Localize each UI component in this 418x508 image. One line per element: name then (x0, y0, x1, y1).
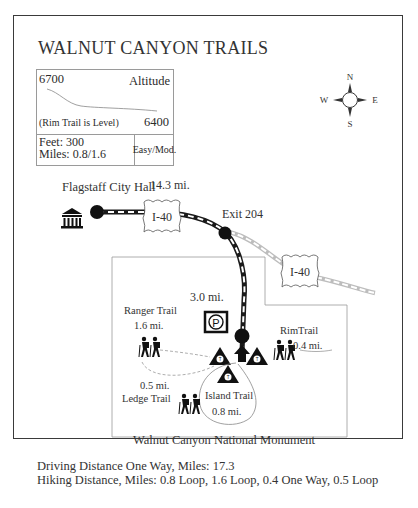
svg-text:I-40: I-40 (290, 265, 310, 279)
trail-marker-bottom (217, 365, 239, 383)
ledge-trail-path (142, 362, 214, 375)
island-trail-distance: 0.8 mi. (212, 406, 241, 417)
hikers-ranger-icon (139, 337, 160, 357)
parking-icon: P (205, 312, 227, 332)
hikers-island-icon (179, 394, 200, 414)
svg-text:W: W (320, 95, 329, 105)
monument-label: Walnut Canyon National Monument (133, 433, 315, 448)
ledge-trail-distance: 0.5 mi. (140, 380, 169, 391)
trail-marker-right (246, 347, 268, 365)
svg-text:P: P (212, 317, 219, 329)
rim-trail-name: RimTrail (280, 325, 318, 336)
svg-text:I-40: I-40 (152, 210, 172, 224)
distance-summary: Driving Distance One Way, Miles: 17.3 Hi… (37, 459, 378, 487)
hikers-rim-icon (274, 340, 295, 360)
ledge-trail-name: Ledge Trail (122, 393, 171, 404)
hiking-distance: Hiking Distance, Miles: 0.8 Loop, 1.6 Lo… (37, 473, 378, 487)
svg-text:S: S (347, 119, 352, 129)
svg-text:N: N (347, 72, 354, 82)
exit-node (219, 227, 232, 240)
island-trail-name: Island Trail (205, 390, 253, 401)
driving-distance: Driving Distance One Way, Miles: 17.3 (37, 459, 378, 473)
ranger-trail-path (160, 350, 210, 357)
start-label: Flagstaff City Hall (62, 180, 156, 195)
svg-text:E: E (372, 95, 378, 105)
start-node (90, 205, 104, 219)
ranger-trail-distance: 1.6 mi. (134, 320, 163, 331)
trailhead-arrow-icon (234, 345, 250, 362)
leg1-distance: 14.3 mi. (150, 178, 190, 193)
leg2-distance: 3.0 mi. (190, 290, 224, 305)
map-graphics: T N S W E I-40 I-40 (0, 0, 418, 508)
ranger-trail-name: Ranger Trail (124, 305, 177, 316)
trailhead-node (235, 329, 250, 344)
compass-rose-icon: N S W E (320, 72, 379, 129)
city-hall-icon (61, 208, 83, 229)
trail-marker-left (209, 347, 231, 365)
rim-trail-distance: 0.4 mi. (293, 340, 322, 351)
exit-label: Exit 204 (222, 207, 263, 222)
